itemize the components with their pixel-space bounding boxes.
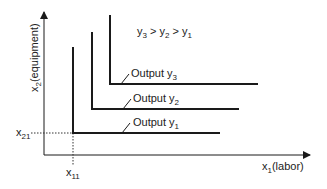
output-y3-label: Output y3 <box>131 67 178 82</box>
output-y1-label: Output y1 <box>133 116 180 131</box>
leader-y1 <box>122 123 130 133</box>
leader-y2 <box>123 99 131 109</box>
x-axis-label: x1(labor) <box>262 160 304 175</box>
x21-label: x21 <box>16 126 31 141</box>
isoquant-diagram: Output y1 Output y2 Output y3 y3 > y2 > … <box>0 0 327 189</box>
ordering-label: y3 > y2 > y1 <box>137 25 193 40</box>
y-axis-label: x2(equipment) <box>28 23 43 92</box>
output-y2-label: Output y2 <box>133 92 180 107</box>
leader-y3 <box>121 74 129 84</box>
x11-label: x11 <box>66 166 80 181</box>
